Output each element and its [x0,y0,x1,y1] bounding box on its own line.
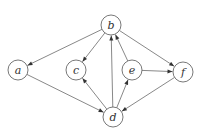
edge-f-to-d [122,77,175,111]
node-label: e [129,64,136,77]
node-d: d [103,107,123,127]
directed-graph: abcdef [0,0,205,137]
edge-e-to-b [115,35,127,61]
arrow-line [122,77,175,111]
edge-d-to-c [82,78,106,109]
node-label: b [107,19,114,32]
arrow-line [82,78,106,109]
node-a: a [8,60,28,80]
arrow-line [111,35,113,107]
arrow-line [27,74,104,112]
node-label: c [73,64,79,77]
arrow-line [115,35,127,61]
edge-a-to-d [27,74,104,112]
node-e: e [122,60,142,80]
arrow-line [142,70,173,71]
edge-d-to-e [117,80,128,108]
edge-e-to-f [142,70,173,71]
edges [27,29,175,112]
arrow-line [27,29,102,65]
edge-b-to-a [27,29,102,65]
edge-d-to-b [111,35,113,107]
node-c: c [66,60,86,80]
arrow-line [117,80,128,108]
node-f: f [173,62,193,82]
node-label: a [15,64,22,77]
node-label: d [109,111,116,124]
node-b: b [101,15,121,35]
